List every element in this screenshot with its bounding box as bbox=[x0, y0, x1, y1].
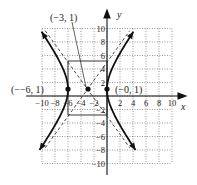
y-tick-label: −2 bbox=[96, 105, 105, 115]
left-vertex-point bbox=[65, 86, 70, 91]
y-tick-label: −8 bbox=[96, 145, 105, 155]
center-point bbox=[85, 86, 90, 91]
y-tick-label: −4 bbox=[96, 118, 106, 128]
x-tick-label: 6 bbox=[144, 98, 148, 108]
y-tick-label: 8 bbox=[101, 37, 105, 47]
y-tick-label: −6 bbox=[96, 132, 105, 142]
x-tick-label: −10 bbox=[35, 98, 48, 108]
x-tick-label: 2 bbox=[118, 98, 122, 108]
x-tick-label: 4 bbox=[131, 98, 136, 108]
center-label: (−3, 1) bbox=[50, 12, 77, 24]
right-vertex-point bbox=[104, 86, 109, 91]
x-axis-arrow-icon bbox=[178, 93, 186, 99]
right-vertex-label: (−0, 1) bbox=[115, 84, 142, 96]
x-tick-label: 8 bbox=[157, 98, 161, 108]
y-axis-label: y bbox=[116, 9, 122, 20]
y-axis-arrow-icon bbox=[104, 10, 110, 18]
x-axis-label: x bbox=[180, 101, 186, 112]
y-tick-label: 10 bbox=[97, 24, 106, 34]
hyperbola-graph: −10−8−6−4−2246810 108642−2−4−6−8−10 (−3,… bbox=[0, 0, 197, 185]
x-tick-label: −4 bbox=[76, 98, 86, 108]
left-vertex-label: (−−6, 1) bbox=[11, 84, 44, 96]
x-tick-label: 10 bbox=[168, 98, 177, 108]
y-tick-label: 6 bbox=[101, 51, 105, 61]
y-tick-label: 2 bbox=[101, 78, 105, 88]
x-tick-label: −8 bbox=[50, 98, 59, 108]
x-tick-label: −6 bbox=[63, 98, 72, 108]
y-tick-label: −10 bbox=[92, 159, 105, 169]
x-tick-labels: −10−8−6−4−2246810 bbox=[35, 98, 176, 108]
